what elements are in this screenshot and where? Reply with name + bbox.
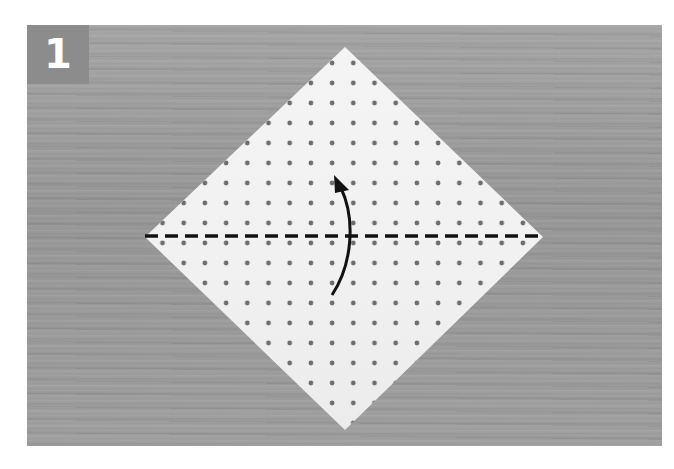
origami-paper-diamond	[140, 40, 550, 440]
polka-dot-pattern	[140, 40, 550, 440]
origami-diagram	[0, 0, 674, 469]
